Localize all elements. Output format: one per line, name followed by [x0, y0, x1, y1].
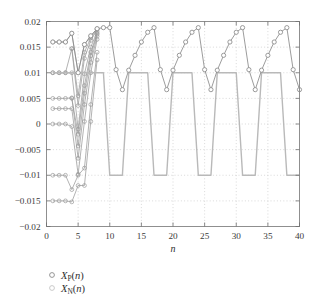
y-tick-label: 0.015 [20, 42, 41, 52]
data-point-marker [184, 40, 188, 44]
data-point-marker [291, 68, 295, 72]
data-point-marker [177, 53, 181, 57]
data-point-marker [203, 68, 207, 72]
data-point-marker [222, 53, 226, 57]
x-tick-label: 25 [200, 231, 210, 241]
x-tick-label: 5 [76, 231, 81, 241]
data-point-marker [127, 68, 131, 72]
x-axis-title: n [171, 243, 176, 254]
data-point-marker [234, 30, 238, 34]
x-tick-label: 20 [168, 231, 178, 241]
data-point-marker [253, 88, 257, 92]
data-point-marker [259, 68, 263, 72]
y-tick-label: −0.02 [19, 222, 41, 232]
x-tick-label: 35 [263, 231, 273, 241]
data-point-marker [215, 68, 219, 72]
data-point-marker [108, 26, 112, 30]
data-point-marker [171, 68, 175, 72]
data-point-marker [139, 40, 143, 44]
data-point-marker [101, 26, 105, 30]
data-point-marker [158, 68, 162, 72]
y-tick-label: −0.005 [15, 145, 41, 155]
data-point-marker [190, 30, 194, 34]
data-point-marker [57, 40, 61, 44]
data-point-marker [228, 40, 232, 44]
data-point-marker [285, 26, 289, 30]
data-point-marker [209, 88, 213, 92]
data-point-marker [247, 68, 251, 72]
x-tick-label: 10 [105, 231, 115, 241]
y-tick-label: 0 [36, 119, 41, 129]
data-point-marker [82, 42, 86, 46]
x-tick-label: 30 [232, 231, 242, 241]
data-point-marker [51, 40, 55, 44]
data-point-marker [272, 40, 276, 44]
data-point-marker [95, 27, 99, 31]
data-point-marker [146, 30, 150, 34]
x-tick-label: 40 [295, 231, 305, 241]
data-point-marker [133, 53, 137, 57]
data-point-marker [196, 26, 200, 30]
data-point-marker [240, 26, 244, 30]
chart-canvas: −0.02−0.015−0.01−0.00500.0050.010.0150.0… [0, 0, 317, 307]
data-point-marker [152, 26, 156, 30]
y-tick-label: −0.015 [15, 196, 41, 206]
y-tick-label: 0.01 [24, 68, 40, 78]
x-tick-label: 15 [137, 231, 147, 241]
x-tick-label: 0 [44, 231, 49, 241]
data-point-marker [89, 34, 93, 38]
y-tick-label: 0.02 [24, 17, 40, 27]
chart-figure: −0.02−0.015−0.01−0.00500.0050.010.0150.0… [0, 0, 317, 307]
y-tick-label: −0.01 [19, 170, 41, 180]
data-point-marker [278, 30, 282, 34]
data-point-marker [70, 31, 74, 35]
data-point-marker [114, 68, 118, 72]
data-point-marker [63, 40, 67, 44]
data-point-marker [266, 53, 270, 57]
y-tick-label: 0.005 [20, 94, 41, 104]
data-point-marker [120, 88, 124, 92]
data-point-marker [76, 71, 80, 75]
data-point-marker [165, 88, 169, 92]
